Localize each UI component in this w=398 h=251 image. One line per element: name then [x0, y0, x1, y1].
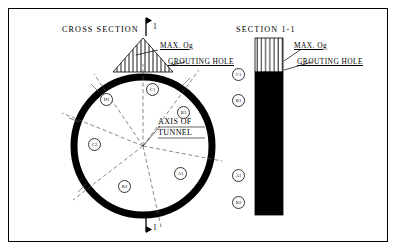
- zone-label-a1: A1: [174, 167, 187, 180]
- diagram-vectors: [0, 0, 398, 251]
- section-grout-column: [255, 38, 283, 215]
- column-label-b1: B1: [232, 94, 245, 107]
- diagram-canvas: CROSS SECTION SECTION 1-1 1 1 MAX. Og GR…: [0, 0, 398, 251]
- zone-label-c2: C2: [88, 138, 101, 151]
- section-grouting-hole-block: [255, 72, 283, 215]
- zone-label-d1: D1: [100, 93, 113, 106]
- section-max-og-block: [255, 38, 283, 72]
- column-label-a1: A1: [232, 169, 245, 182]
- leader-lines-right: [284, 50, 312, 70]
- zone-label-b2: B2: [118, 180, 131, 193]
- max-og-triangle: [113, 38, 173, 72]
- column-label-b2: B2: [232, 196, 245, 209]
- zone-label-c1: C1: [146, 83, 159, 96]
- zone-label-b1: B1: [177, 106, 190, 119]
- section-mark-top: [146, 17, 152, 36]
- column-label-c1: C1: [232, 68, 245, 81]
